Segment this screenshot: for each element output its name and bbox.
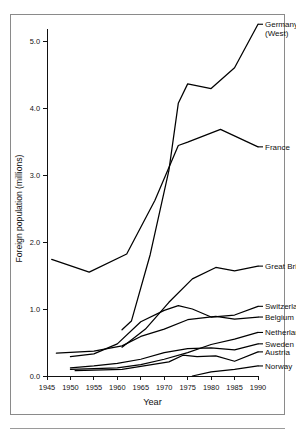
series-path-norway [192, 366, 258, 376]
series-label-belgium: Belgium [265, 313, 294, 322]
series-path-belgium [56, 316, 258, 353]
y-tick-label: 2.0 [30, 238, 40, 247]
x-tick-label: 1960 [109, 383, 125, 392]
series-label-austria: Austria [265, 348, 290, 357]
x-tick-label: 1955 [86, 383, 102, 392]
y-tick-label: 3.0 [30, 171, 40, 180]
series-label-netherlands: Netherlands [265, 328, 296, 337]
x-tick-label: 1950 [62, 383, 78, 392]
x-tick-label: 1945 [39, 383, 55, 392]
x-tick-label: 1985 [226, 383, 242, 392]
x-tick-label: 1980 [203, 383, 219, 392]
series-label-germany-west-line2: (West) [265, 29, 289, 38]
x-tick-label: 1975 [179, 383, 195, 392]
axis-spines [47, 29, 258, 376]
series-path-france [52, 129, 258, 272]
x-axis-title: Year [143, 397, 162, 407]
y-tick-label: 1.0 [30, 305, 40, 314]
series-label-germany-west: Germany [265, 20, 296, 29]
series-label-great-britain: Great Britain [265, 262, 296, 271]
series-path-great-britain [122, 266, 258, 347]
series-labels: Germany(West)FranceGreat BritainSwitzerl… [258, 20, 296, 371]
y-tick-label: 0.0 [30, 372, 40, 381]
x-tick-label: 1970 [156, 383, 172, 392]
series-label-france: France [265, 143, 290, 152]
y-tick-label: 5.0 [30, 37, 40, 46]
y-axis-title: Foreign population (millions) [14, 154, 24, 262]
y-tick-label: 4.0 [30, 104, 40, 113]
series-label-switzerland: Switzerland [265, 302, 296, 311]
series-label-norway: Norway [265, 362, 292, 371]
axes: 0.01.02.03.04.05.01945195019551960196519… [30, 29, 267, 392]
x-tick-label: 1965 [133, 383, 149, 392]
series-lines [52, 24, 258, 376]
x-tick-label: 1990 [250, 383, 266, 392]
series-path-germany-west [122, 24, 258, 330]
figure-container: 0.01.02.03.04.05.01945195019551960196519… [0, 0, 296, 434]
line-chart: 0.01.02.03.04.05.01945195019551960196519… [0, 0, 296, 434]
series-path-sweden [70, 344, 258, 368]
